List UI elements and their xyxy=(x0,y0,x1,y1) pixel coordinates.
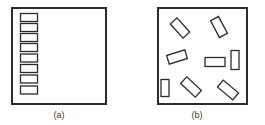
aligned-rectangle xyxy=(21,44,38,52)
random-rectangle xyxy=(231,51,239,70)
panel-b: (b) xyxy=(158,8,247,120)
aligned-rectangle xyxy=(21,24,38,32)
aligned-rectangle xyxy=(21,14,38,22)
aligned-rectangle xyxy=(21,75,38,83)
panel-a-shape-group xyxy=(21,14,38,95)
aligned-rectangle xyxy=(21,65,38,73)
aligned-rectangle xyxy=(21,86,38,94)
panel-a-caption: (a) xyxy=(54,110,65,120)
panel-b-caption: (b) xyxy=(192,110,203,120)
panel-a: (a) xyxy=(12,8,106,120)
aligned-rectangle xyxy=(21,54,38,62)
random-rectangle xyxy=(161,80,169,97)
random-rectangle xyxy=(205,58,225,67)
comparison-figure: (a) (b) xyxy=(0,0,265,125)
aligned-rectangle xyxy=(21,34,38,42)
